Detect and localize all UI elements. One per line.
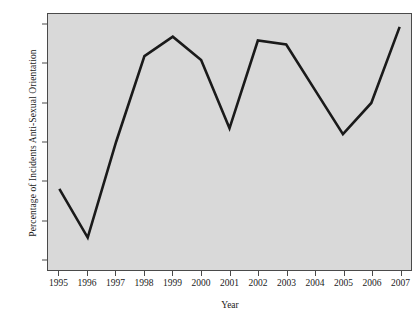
x-tick-mark xyxy=(58,271,59,276)
x-tick-mark xyxy=(87,271,88,276)
x-tick-mark xyxy=(230,271,231,276)
line-chart-figure: Percentage of Incidents Anti-Sexual Orie… xyxy=(0,0,418,321)
x-axis-title: Year xyxy=(47,300,413,310)
x-tick-mark xyxy=(315,271,316,276)
x-tick-mark xyxy=(144,271,145,276)
x-tick-mark xyxy=(372,271,373,276)
x-tick-label: 2007 xyxy=(381,278,418,288)
x-tick-mark xyxy=(115,271,116,276)
x-tick-mark xyxy=(201,271,202,276)
x-tick-mark xyxy=(401,271,402,276)
x-tick-mark xyxy=(344,271,345,276)
x-axis: 1995199619971998199920002001200220032004… xyxy=(0,0,418,321)
x-tick-mark xyxy=(287,271,288,276)
x-tick-mark xyxy=(172,271,173,276)
x-tick-mark xyxy=(258,271,259,276)
